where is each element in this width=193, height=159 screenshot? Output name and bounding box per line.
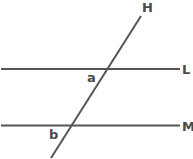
label-L: L — [182, 62, 190, 77]
label-H: H — [142, 0, 153, 15]
angle-label-b: b — [49, 127, 58, 142]
label-M: M — [182, 119, 193, 134]
diagram-canvas: H L M a b — [0, 0, 193, 159]
transversal-H — [51, 16, 141, 158]
angle-label-a: a — [87, 70, 96, 85]
